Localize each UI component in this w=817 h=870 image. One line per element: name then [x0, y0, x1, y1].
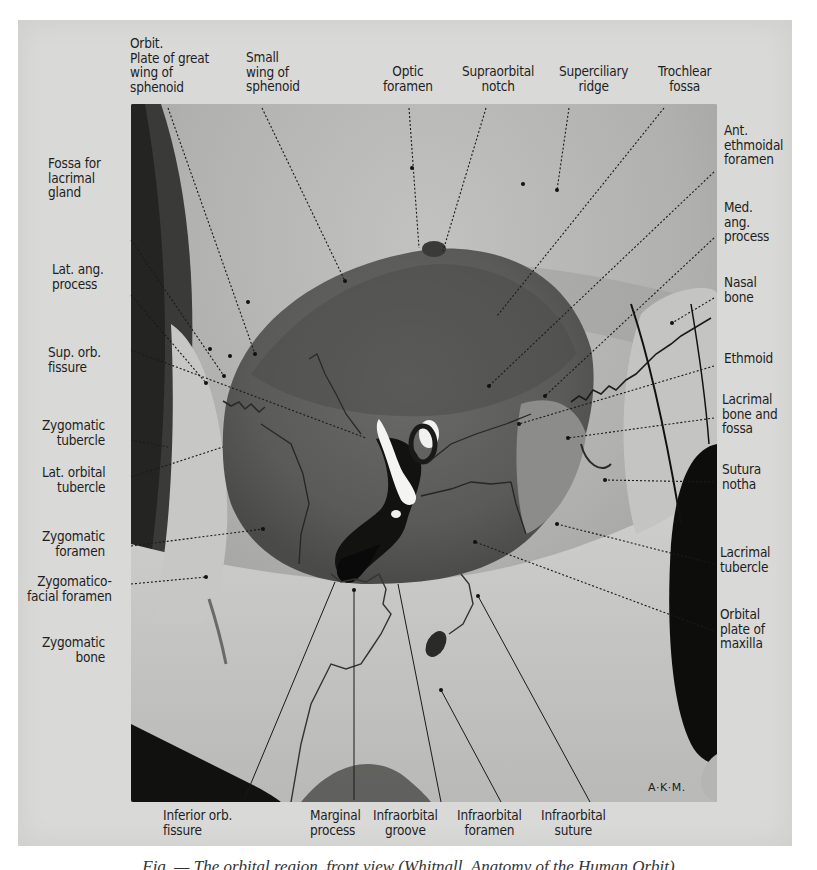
label-infraorbital-groove: Infraorbital groove: [373, 808, 438, 837]
label-supraorbital-notch: Supraorbital notch: [462, 64, 534, 93]
label-inferior-orb-fissure: Inferior orb. fissure: [163, 808, 232, 837]
label-lacrimal-bone-fossa: Lacrimal bone and fossa: [722, 392, 777, 436]
label-med-ang-process: Med. ang. process: [724, 200, 769, 244]
label-optic-foramen: Optic foramen: [383, 64, 433, 93]
label-ant-ethmoidal-foramen: Ant. ethmoidal foramen: [724, 123, 783, 167]
label-zygomaticofacial-foramen: Zygomatico- facial foramen: [27, 574, 112, 603]
label-ethmoid: Ethmoid: [724, 351, 773, 366]
label-infraorbital-foramen: Infraorbital foramen: [457, 808, 522, 837]
label-marginal-process: Marginal process: [310, 808, 361, 837]
label-trochlear-fossa: Trochlear fossa: [658, 64, 711, 93]
orbit-photograph: [131, 104, 717, 802]
label-sutura-notha: Sutura notha: [722, 462, 761, 491]
label-zygomatic-tubercle: Zygomatic tubercle: [42, 418, 105, 447]
label-lat-ang-process: Lat. ang. process: [52, 262, 104, 291]
label-small-wing-sphenoid: Small wing of sphenoid: [246, 50, 300, 94]
label-zygomatic-foramen: Zygomatic foramen: [42, 529, 105, 558]
label-orbital-plate-maxilla: Orbital plate of maxilla: [720, 607, 765, 651]
artist-initials: A·K·M.: [648, 781, 686, 794]
label-lacrimal-tubercle: Lacrimal tubercle: [720, 545, 770, 574]
label-zygomatic-bone: Zygomatic bone: [42, 635, 105, 664]
figure-caption: Fig. — The orbital region, front view (W…: [0, 855, 817, 870]
label-sup-orb-fissure: Sup. orb. fissure: [48, 345, 101, 374]
label-fossa-lacrimal-gland: Fossa for lacrimal gland: [48, 156, 101, 200]
label-orbit-plate-great-wing: Orbit. Plate of great wing of sphenoid: [130, 36, 209, 94]
label-nasal-bone: Nasal bone: [724, 275, 757, 304]
label-lat-orbital-tubercle: Lat. orbital tubercle: [42, 465, 105, 494]
label-superciliary-ridge: Superciliary ridge: [559, 64, 628, 93]
label-infraorbital-suture: Infraorbital suture: [541, 808, 606, 837]
